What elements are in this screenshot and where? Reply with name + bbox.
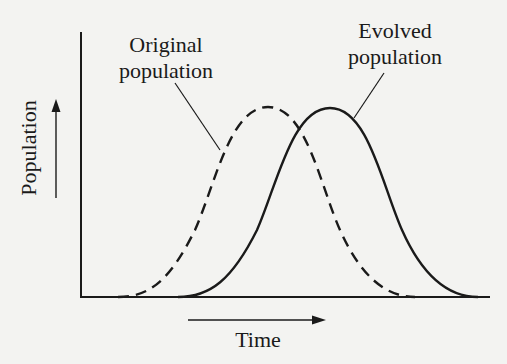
original-leader-line: [175, 83, 220, 150]
evolved-population-curve: [178, 108, 478, 297]
x-axis-label: Time: [235, 327, 281, 352]
population-diagram: Original population Evolved population P…: [0, 0, 507, 364]
evolved-label-line2: population: [348, 44, 442, 69]
y-axis-label: Population: [16, 100, 41, 195]
population-arrow-head-icon: [52, 99, 61, 112]
original-population-curve: [118, 107, 415, 297]
original-label-line1: Original: [129, 32, 202, 57]
evolved-leader-line: [354, 73, 384, 118]
original-label-line2: population: [119, 58, 213, 83]
time-arrow-head-icon: [312, 316, 326, 325]
evolved-label-line1: Evolved: [358, 18, 431, 43]
